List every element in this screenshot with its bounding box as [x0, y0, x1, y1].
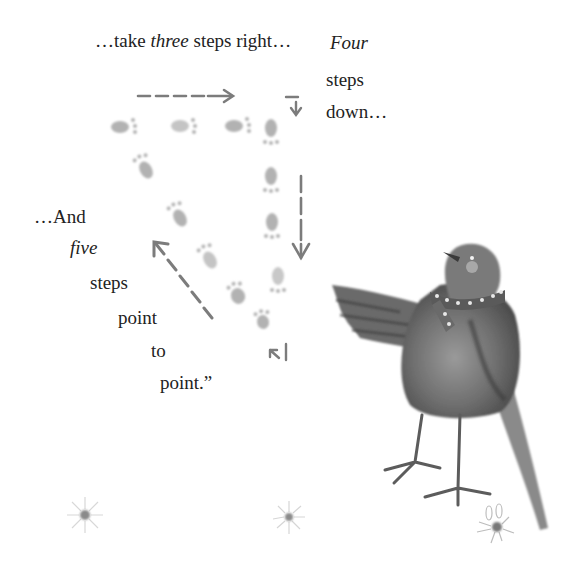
- down-arrow-short: [286, 97, 301, 115]
- right-arrow: [138, 90, 233, 102]
- flower-right: [477, 504, 514, 543]
- bird: [332, 244, 548, 530]
- footprint: [225, 279, 248, 306]
- footprint: [195, 241, 222, 272]
- footprint: [263, 167, 279, 193]
- bird-eye: [470, 256, 474, 260]
- flower-left: [67, 497, 103, 533]
- footprint: [264, 213, 280, 239]
- footprint: [270, 267, 286, 293]
- footprint: [263, 119, 279, 145]
- down-arrow-long: [293, 176, 309, 258]
- footprint: [253, 308, 272, 330]
- footprint: [131, 151, 158, 182]
- small-up-left-arrow: [270, 344, 286, 360]
- bird-cheek: [466, 261, 478, 273]
- bird-legs: [385, 415, 490, 505]
- footprint: [111, 118, 137, 134]
- footprint: [171, 118, 197, 134]
- diagonal-up-left-arrow: [154, 242, 212, 318]
- illustration: [0, 0, 581, 569]
- footprint: [225, 117, 251, 133]
- flower-middle: [273, 501, 305, 534]
- footprint: [165, 199, 192, 230]
